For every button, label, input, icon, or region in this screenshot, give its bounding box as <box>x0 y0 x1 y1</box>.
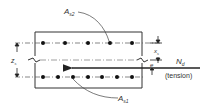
label-as2: As2 <box>63 7 75 17</box>
label-e: e <box>150 62 154 68</box>
label-nd: Nd <box>176 57 185 67</box>
break-line-right-icon <box>137 58 148 62</box>
bottom-rebars <box>41 75 134 79</box>
label-tension: (tension) <box>165 72 192 80</box>
rc-section-diagram: As2 As1 zs xs e Nd (tension) <box>0 0 212 111</box>
break-line-left-icon <box>28 58 40 62</box>
top-rebars <box>41 41 134 45</box>
leader-as2 <box>78 12 109 41</box>
label-zs: zs <box>10 57 17 66</box>
label-xs: xs <box>153 48 159 56</box>
label-as1: As1 <box>117 94 129 104</box>
